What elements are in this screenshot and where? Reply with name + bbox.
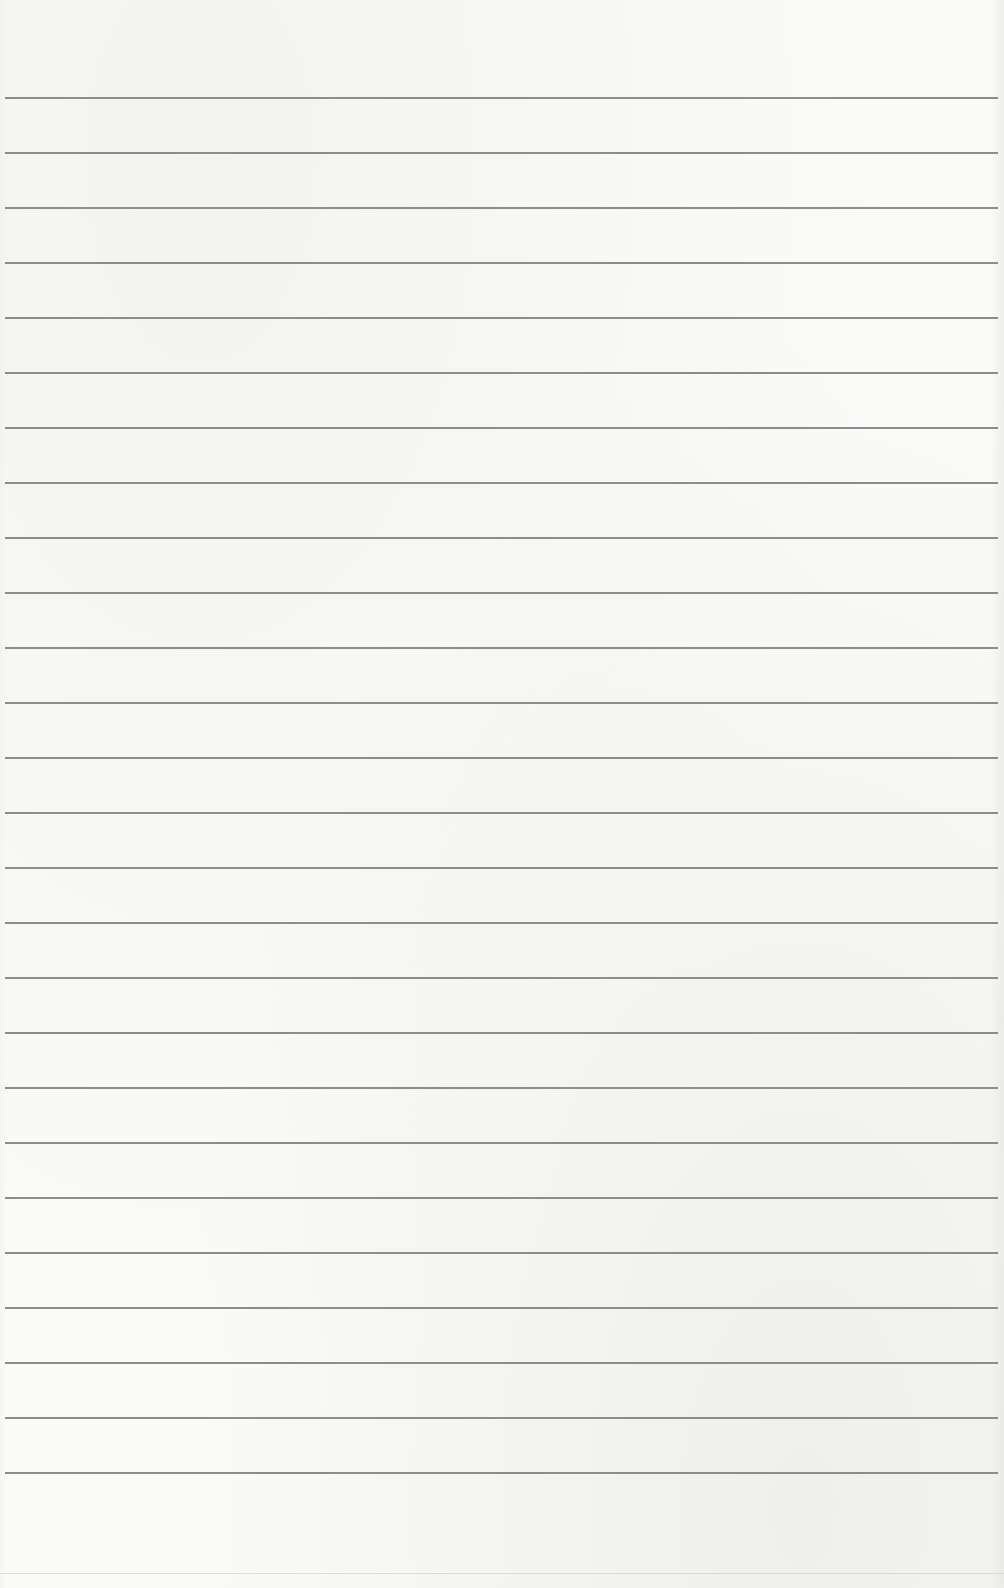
ruled-line (5, 537, 998, 539)
ruled-line (5, 647, 998, 649)
ruled-line (5, 317, 998, 319)
ruled-line (5, 262, 998, 264)
ruled-line (5, 1252, 998, 1254)
ruled-line (5, 1087, 998, 1089)
ruled-line (5, 812, 998, 814)
ruled-line (5, 372, 998, 374)
ruled-line (5, 1142, 998, 1144)
ruled-line (5, 1417, 998, 1419)
ruled-line (5, 427, 998, 429)
ruled-line (5, 1307, 998, 1309)
ruled-line (5, 1362, 998, 1364)
ruled-line (5, 97, 998, 99)
ruled-line (5, 757, 998, 759)
ruled-line (5, 207, 998, 209)
ruled-line (5, 702, 998, 704)
ruled-line (5, 1472, 998, 1474)
ruled-line (5, 1032, 998, 1034)
ruled-line (5, 977, 998, 979)
ruled-line (5, 592, 998, 594)
ruled-line (5, 867, 998, 869)
ruled-line (5, 482, 998, 484)
ruled-line (5, 1197, 998, 1199)
bottom-edge-seam (0, 1573, 1004, 1574)
ruled-line (5, 922, 998, 924)
ruled-line (5, 152, 998, 154)
lined-paper-sheet (0, 0, 1004, 1588)
